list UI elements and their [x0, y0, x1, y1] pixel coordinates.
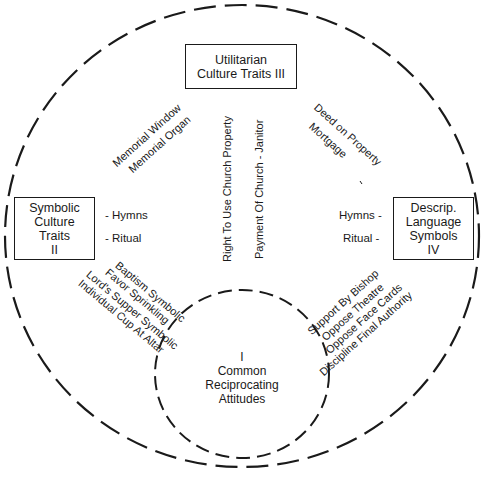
common-reciprocating-attitudes-label: I Common Reciprocating Attitudes [182, 350, 302, 406]
box-title-line: IV [428, 243, 440, 257]
box-title-line: Symbolic [29, 201, 80, 215]
left-item-ritual: - Ritual [105, 232, 141, 245]
box-title-line: II [51, 243, 58, 257]
center-line: Attitudes [182, 392, 302, 406]
utilitarian-culture-traits-box: Utilitarian Culture Traits III [185, 44, 297, 89]
right-item-ritual: Ritual - [343, 232, 379, 245]
box-title-line: Culture Traits III [197, 67, 285, 81]
box-title-line: Traits [39, 229, 70, 243]
box-title-line: Language [406, 215, 462, 229]
box-title-line: Utilitarian [215, 53, 267, 67]
right-item-hymns: Hymns - [339, 209, 382, 222]
box-title-line: Symbols [410, 229, 458, 243]
center-numeral: I [182, 350, 302, 364]
center-line: Common [182, 364, 302, 378]
tick-mark [360, 181, 362, 184]
left-item-hymns: - Hymns [105, 209, 148, 222]
box-title-line: Descrip. [411, 201, 457, 215]
box-title-line: Culture [34, 215, 74, 229]
symbolic-culture-traits-box: Symbolic Culture Traits II [14, 197, 95, 260]
vertical-item-payment-of-church-janitor: Payment Of Church - Janitor [253, 120, 266, 259]
descriptive-language-symbols-box: Descrip. Language Symbols IV [393, 197, 474, 260]
vertical-item-right-to-use-church-property: Right To Use Church Property [221, 116, 234, 262]
center-line: Reciprocating [182, 378, 302, 392]
